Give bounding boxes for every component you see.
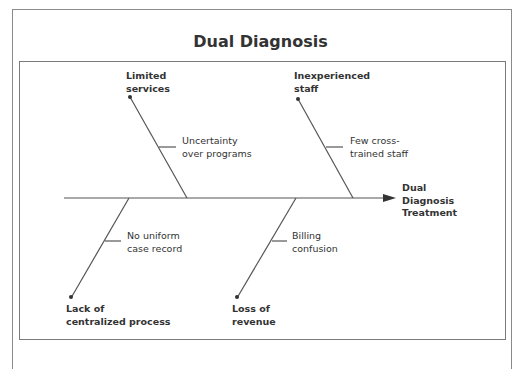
cause-label: Billingconfusion (292, 230, 338, 255)
cause-label: Uncertaintyover programs (182, 135, 252, 160)
branch-limited-services (130, 97, 187, 198)
category-label-loss-of-revenue: Loss ofrevenue (232, 303, 276, 328)
effect-label: DualDiagnosisTreatment (402, 182, 457, 220)
category-label-limited-services: Limitedservices (126, 70, 170, 95)
branch-loss-of-revenue (237, 198, 296, 298)
branch-lack-of-centralized-process (71, 198, 129, 298)
arrowhead-icon (383, 194, 396, 202)
category-label-lack-of-centralized-process: Lack ofcentralized process (66, 303, 170, 328)
cause-label: Few cross-trained staff (350, 135, 408, 160)
branch-inexperienced-staff (298, 99, 353, 198)
cause-label: No uniformcase record (127, 230, 182, 255)
category-label-inexperienced-staff: Inexperiencedstaff (294, 70, 370, 95)
